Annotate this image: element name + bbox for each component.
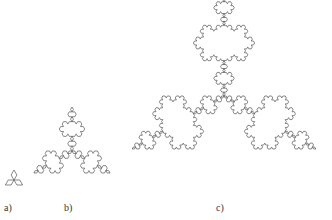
figure-b-label: b) <box>64 202 72 213</box>
figure-a-label: a) <box>4 202 12 213</box>
figure-c-label: c) <box>216 202 224 213</box>
koch-figure-b <box>34 107 110 173</box>
koch-figure-a <box>5 170 22 185</box>
koch-figure-c <box>132 0 316 149</box>
fractal-canvas <box>0 0 332 220</box>
